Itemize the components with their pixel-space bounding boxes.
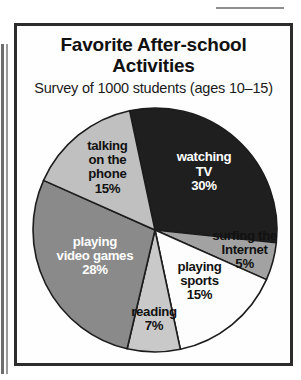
chart-subtitle: Survey of 1000 students (ages 10–15) bbox=[17, 80, 290, 96]
pie-chart-svg: watchingTV30%surfing theInternet5%playin… bbox=[29, 104, 281, 356]
scan-edge-artifact-left bbox=[1, 44, 4, 374]
chart-title-line-1: Favorite After-school bbox=[17, 34, 290, 55]
scan-edge-artifact-left-secondary bbox=[6, 44, 8, 374]
scan-rule-artifact-top-right bbox=[216, 7, 284, 9]
pie-chart: watchingTV30%surfing theInternet5%playin… bbox=[29, 104, 281, 356]
chart-title-line-2: Activities bbox=[17, 55, 290, 76]
chart-title: Favorite After-school Activities bbox=[17, 34, 290, 77]
figure-frame: Favorite After-school Activities Survey … bbox=[14, 23, 293, 366]
